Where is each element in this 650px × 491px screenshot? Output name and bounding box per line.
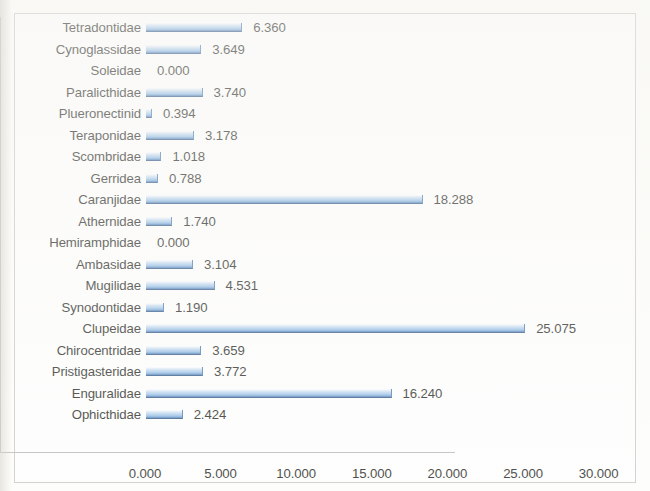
category-label: Scombridae — [0, 146, 141, 168]
x-tick-label: 25.000 — [483, 466, 563, 481]
category-label: Plueronectinid — [0, 103, 141, 125]
bar-container — [146, 303, 164, 312]
category-label: Clupeidae — [0, 318, 141, 340]
bar[interactable] — [146, 389, 392, 398]
bar-container — [146, 23, 242, 32]
bar[interactable] — [146, 410, 183, 419]
bar[interactable] — [146, 367, 203, 376]
bar-container — [146, 45, 201, 54]
bar[interactable] — [146, 281, 215, 290]
bar-value-label: 3.659 — [212, 340, 245, 362]
category-label: Paralicthidae — [0, 82, 141, 104]
chart-row: Teraponidae3.178 — [0, 125, 650, 147]
category-label: Caranjidae — [0, 189, 141, 211]
chart-row: Clupeidae25.075 — [0, 318, 650, 340]
bar-container — [146, 367, 203, 376]
x-tick-label: 0.000 — [105, 466, 185, 481]
category-label: Teraponidae — [0, 125, 141, 147]
bar-container — [146, 346, 201, 355]
x-tick-label: 30.000 — [559, 466, 639, 481]
bar-value-label: 18.288 — [434, 189, 474, 211]
bar-container — [146, 152, 161, 161]
category-label: Pristigasteridae — [0, 361, 141, 383]
bar-container — [146, 217, 172, 226]
category-label: Hemiramphidae — [0, 232, 141, 254]
chart-row: Synodontidae1.190 — [0, 297, 650, 319]
bar-value-label: 3.649 — [212, 39, 245, 61]
bar[interactable] — [146, 152, 161, 161]
bar[interactable] — [146, 346, 201, 355]
chart-row: Caranjidae18.288 — [0, 189, 650, 211]
category-label: Tetradontidae — [0, 17, 141, 39]
bar-container — [146, 174, 158, 183]
x-tick-label: 5.000 — [181, 466, 261, 481]
bar-value-label: 3.178 — [205, 125, 238, 147]
bar-value-label: 16.240 — [403, 383, 443, 405]
bar[interactable] — [146, 109, 152, 118]
bar-chart-figure: Tetradontidae6.360Cynoglassidae3.649Sole… — [0, 0, 650, 491]
category-label: Ambasidae — [0, 254, 141, 276]
category-label: Chirocentridae — [0, 340, 141, 362]
bar[interactable] — [146, 324, 525, 333]
chart-row: Gerridea0.788 — [0, 168, 650, 190]
bar-container — [146, 281, 215, 290]
category-label: Athernidae — [0, 211, 141, 233]
bar-container — [146, 389, 392, 398]
bar-container — [146, 260, 193, 269]
bar-value-label: 3.104 — [204, 254, 237, 276]
chart-row: Tetradontidae6.360 — [0, 17, 650, 39]
bar-value-label: 6.360 — [253, 17, 286, 39]
bar-container — [146, 195, 423, 204]
bar-value-label: 0.394 — [163, 103, 196, 125]
bar[interactable] — [146, 23, 242, 32]
bar-value-label: 0.788 — [169, 168, 202, 190]
bar[interactable] — [146, 88, 203, 97]
bar-container — [146, 131, 194, 140]
bar[interactable] — [146, 195, 423, 204]
bar-container — [146, 109, 152, 118]
bar-container — [146, 88, 203, 97]
chart-row: Pristigasteridae3.772 — [0, 361, 650, 383]
bar-container — [146, 410, 183, 419]
chart-row: Athernidae1.740 — [0, 211, 650, 233]
category-label: Cynoglassidae — [0, 39, 141, 61]
category-label: Enguralidae — [0, 383, 141, 405]
category-label: Synodontidae — [0, 297, 141, 319]
category-label: Mugilidae — [0, 275, 141, 297]
bar-value-label: 1.190 — [175, 297, 208, 319]
x-axis-line — [0, 452, 455, 453]
chart-row: Scombridae1.018 — [0, 146, 650, 168]
chart-row: Enguralidae16.240 — [0, 383, 650, 405]
chart-row: Chirocentridae3.659 — [0, 340, 650, 362]
bar-value-label: 3.772 — [214, 361, 247, 383]
bar-value-label: 4.531 — [226, 275, 259, 297]
bar-value-label: 1.740 — [183, 211, 216, 233]
bar-value-label: 1.018 — [172, 146, 205, 168]
bar[interactable] — [146, 131, 194, 140]
chart-row: Ambasidae3.104 — [0, 254, 650, 276]
chart-row: Ophicthidae2.424 — [0, 404, 650, 426]
bar[interactable] — [146, 217, 172, 226]
x-tick-label: 10.000 — [256, 466, 336, 481]
bar-value-label: 3.740 — [214, 82, 247, 104]
chart-row: Cynoglassidae3.649 — [0, 39, 650, 61]
bar-value-label: 25.075 — [536, 318, 576, 340]
category-label: Ophicthidae — [0, 404, 141, 426]
bar-value-label: 2.424 — [194, 404, 227, 426]
chart-row: Plueronectinid0.394 — [0, 103, 650, 125]
x-tick-label: 15.000 — [332, 466, 412, 481]
chart-row: Soleidae0.000 — [0, 60, 650, 82]
chart-row: Mugilidae4.531 — [0, 275, 650, 297]
x-tick-label: 20.000 — [407, 466, 487, 481]
chart-row: Paralicthidae3.740 — [0, 82, 650, 104]
chart-row: Hemiramphidae0.000 — [0, 232, 650, 254]
bar-value-label: 0.000 — [157, 232, 190, 254]
bar-container — [146, 324, 525, 333]
category-label: Soleidae — [0, 60, 141, 82]
bar[interactable] — [146, 260, 193, 269]
bar[interactable] — [146, 45, 201, 54]
bar[interactable] — [146, 174, 158, 183]
bar-value-label: 0.000 — [157, 60, 190, 82]
bar[interactable] — [146, 303, 164, 312]
category-label: Gerridea — [0, 168, 141, 190]
